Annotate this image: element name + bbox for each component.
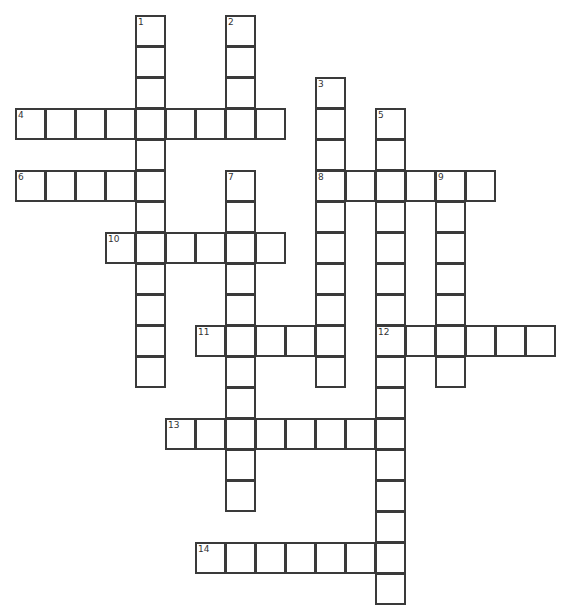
crossword-cell[interactable] xyxy=(315,201,346,233)
crossword-cell[interactable] xyxy=(225,46,256,78)
crossword-cell[interactable] xyxy=(135,201,166,233)
crossword-cell[interactable] xyxy=(315,325,346,357)
crossword-cell[interactable] xyxy=(495,325,526,357)
crossword-cell[interactable]: 2 xyxy=(225,15,256,47)
crossword-cell[interactable] xyxy=(465,170,496,202)
crossword-cell[interactable] xyxy=(225,356,256,388)
crossword-cell[interactable]: 5 xyxy=(375,108,406,140)
crossword-cell[interactable] xyxy=(375,232,406,264)
crossword-cell[interactable] xyxy=(105,108,136,140)
crossword-cell[interactable] xyxy=(135,46,166,78)
crossword-cell[interactable] xyxy=(315,232,346,264)
clue-number: 8 xyxy=(318,172,324,182)
crossword-cell[interactable]: 6 xyxy=(15,170,46,202)
crossword-cell[interactable] xyxy=(375,139,406,171)
crossword-cell[interactable] xyxy=(135,139,166,171)
crossword-cell[interactable] xyxy=(435,201,466,233)
crossword-cell[interactable] xyxy=(255,418,286,450)
crossword-cell[interactable] xyxy=(315,108,346,140)
crossword-cell[interactable] xyxy=(135,77,166,109)
crossword-cell[interactable] xyxy=(405,170,436,202)
crossword-cell[interactable]: 3 xyxy=(315,77,346,109)
clue-number: 5 xyxy=(378,110,384,120)
crossword-cell[interactable] xyxy=(435,263,466,295)
crossword-cell[interactable] xyxy=(435,294,466,326)
crossword-cell[interactable] xyxy=(315,263,346,295)
crossword-cell[interactable]: 12 xyxy=(375,325,406,357)
crossword-cell[interactable] xyxy=(255,542,286,574)
crossword-cell[interactable] xyxy=(225,449,256,481)
crossword-cell[interactable] xyxy=(135,294,166,326)
crossword-cell[interactable] xyxy=(45,170,76,202)
crossword-cell[interactable] xyxy=(195,108,226,140)
crossword-cell[interactable] xyxy=(225,418,256,450)
crossword-cell[interactable]: 10 xyxy=(105,232,136,264)
crossword-cell[interactable] xyxy=(255,325,286,357)
crossword-cell[interactable] xyxy=(315,542,346,574)
crossword-cell[interactable]: 8 xyxy=(315,170,346,202)
crossword-cell[interactable] xyxy=(225,542,256,574)
crossword-cell[interactable] xyxy=(435,356,466,388)
crossword-cell[interactable] xyxy=(135,356,166,388)
crossword-cell[interactable] xyxy=(135,170,166,202)
crossword-cell[interactable] xyxy=(255,108,286,140)
crossword-cell[interactable] xyxy=(225,325,256,357)
crossword-cell[interactable] xyxy=(375,294,406,326)
crossword-cell[interactable] xyxy=(435,232,466,264)
crossword-cell[interactable] xyxy=(225,108,256,140)
crossword-cell[interactable] xyxy=(165,108,196,140)
crossword-cell[interactable] xyxy=(525,325,556,357)
crossword-cell[interactable] xyxy=(225,387,256,419)
crossword-cell[interactable]: 14 xyxy=(195,542,226,574)
crossword-cell[interactable] xyxy=(225,232,256,264)
crossword-cell[interactable] xyxy=(225,294,256,326)
crossword-cell[interactable]: 7 xyxy=(225,170,256,202)
crossword-cell[interactable] xyxy=(75,170,106,202)
crossword-cell[interactable] xyxy=(285,325,316,357)
crossword-cell[interactable] xyxy=(105,170,136,202)
crossword-cell[interactable] xyxy=(375,418,406,450)
crossword-cell[interactable] xyxy=(315,356,346,388)
crossword-cell[interactable] xyxy=(345,418,376,450)
crossword-cell[interactable]: 13 xyxy=(165,418,196,450)
crossword-cell[interactable] xyxy=(195,232,226,264)
crossword-cell[interactable] xyxy=(285,542,316,574)
crossword-cell[interactable] xyxy=(375,449,406,481)
crossword-cell[interactable] xyxy=(375,356,406,388)
crossword-cell[interactable] xyxy=(465,325,496,357)
crossword-cell[interactable] xyxy=(315,418,346,450)
clue-number: 1 xyxy=(138,17,144,27)
crossword-cell[interactable] xyxy=(315,294,346,326)
crossword-cell[interactable] xyxy=(345,542,376,574)
crossword-cell[interactable] xyxy=(375,263,406,295)
crossword-cell[interactable] xyxy=(435,325,466,357)
crossword-cell[interactable] xyxy=(195,418,226,450)
crossword-cell[interactable] xyxy=(405,325,436,357)
crossword-cell[interactable] xyxy=(375,387,406,419)
crossword-cell[interactable] xyxy=(375,573,406,605)
crossword-cell[interactable] xyxy=(315,139,346,171)
crossword-cell[interactable] xyxy=(345,170,376,202)
crossword-cell[interactable]: 1 xyxy=(135,15,166,47)
crossword-cell[interactable] xyxy=(375,170,406,202)
crossword-cell[interactable] xyxy=(375,480,406,512)
crossword-cell[interactable] xyxy=(45,108,76,140)
crossword-cell[interactable] xyxy=(255,232,286,264)
crossword-cell[interactable] xyxy=(375,542,406,574)
crossword-cell[interactable] xyxy=(285,418,316,450)
crossword-cell[interactable] xyxy=(135,232,166,264)
crossword-cell[interactable] xyxy=(225,263,256,295)
crossword-cell[interactable]: 9 xyxy=(435,170,466,202)
crossword-cell[interactable] xyxy=(165,232,196,264)
crossword-cell[interactable] xyxy=(135,325,166,357)
crossword-cell[interactable] xyxy=(375,201,406,233)
crossword-cell[interactable] xyxy=(135,108,166,140)
crossword-cell[interactable] xyxy=(225,480,256,512)
crossword-cell[interactable] xyxy=(135,263,166,295)
crossword-cell[interactable] xyxy=(225,201,256,233)
crossword-cell[interactable] xyxy=(75,108,106,140)
crossword-cell[interactable]: 11 xyxy=(195,325,226,357)
crossword-cell[interactable] xyxy=(375,511,406,543)
crossword-cell[interactable]: 4 xyxy=(15,108,46,140)
crossword-cell[interactable] xyxy=(225,77,256,109)
